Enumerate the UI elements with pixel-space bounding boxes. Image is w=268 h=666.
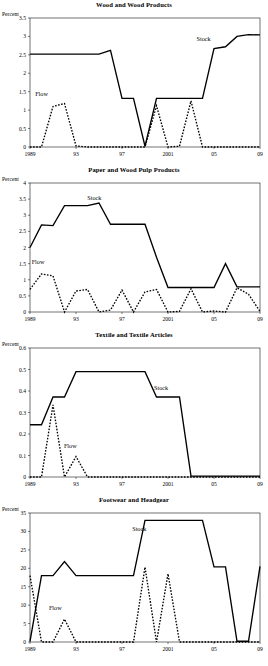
x-tick-label: 09 bbox=[257, 646, 263, 652]
y-tick-label: 3.5 bbox=[19, 196, 26, 202]
y-tick-label: 1 bbox=[23, 277, 26, 283]
x-tick-label: 1989 bbox=[24, 151, 35, 157]
chart-title: Textile and Textile Articles bbox=[0, 330, 268, 339]
y-tick-label: 1.5 bbox=[19, 261, 26, 267]
y-tick-label: 3 bbox=[23, 212, 26, 218]
chart-plot: Percent00.511.522.533.541989939720010509… bbox=[0, 174, 268, 330]
y-tick-label: 1.5 bbox=[19, 89, 26, 95]
stock-series-line bbox=[30, 372, 260, 476]
chart-canvas-2: Percent00.10.20.30.40.50.619899397200105… bbox=[0, 339, 268, 495]
y-axis-unit-label: Percent bbox=[2, 176, 19, 182]
y-axis-unit-label: Percent bbox=[2, 506, 19, 512]
figure-sheet: Wood and Wood Products Percent00.511.522… bbox=[0, 0, 268, 666]
y-tick-label: 0.6 bbox=[19, 345, 26, 351]
flow-series-line bbox=[30, 274, 260, 312]
y-tick-label: 2.5 bbox=[19, 52, 26, 58]
chart-plot: Percent00.511.522.533.51989939720010509S… bbox=[0, 9, 268, 165]
x-tick-label: 93 bbox=[73, 151, 79, 157]
stock-series-line bbox=[30, 520, 260, 641]
series-annotation-flow: Flow bbox=[64, 442, 77, 449]
x-tick-label: 05 bbox=[211, 646, 217, 652]
x-tick-label: 2001 bbox=[162, 151, 173, 157]
y-tick-label: 0.3 bbox=[19, 410, 26, 416]
y-tick-label: 10 bbox=[20, 602, 26, 608]
chart-canvas-3: Percent051015202530351989939720010509Sto… bbox=[0, 504, 268, 660]
x-tick-label: 09 bbox=[257, 316, 263, 322]
y-axis-unit-label: Percent bbox=[2, 341, 19, 347]
y-tick-label: 3 bbox=[23, 33, 26, 39]
x-tick-label: 2001 bbox=[162, 646, 173, 652]
chart-title: Paper and Wood Pulp Products bbox=[0, 165, 268, 174]
x-tick-label: 93 bbox=[73, 646, 79, 652]
x-tick-label: 97 bbox=[119, 151, 125, 157]
x-tick-label: 05 bbox=[211, 481, 217, 487]
y-tick-label: 0 bbox=[23, 639, 26, 645]
y-tick-label: 0 bbox=[23, 144, 26, 150]
x-tick-label: 1989 bbox=[24, 316, 35, 322]
y-tick-label: 25 bbox=[20, 547, 26, 553]
x-tick-label: 1989 bbox=[24, 481, 35, 487]
y-tick-label: 0.5 bbox=[19, 293, 26, 299]
y-tick-label: 0.5 bbox=[19, 126, 26, 132]
x-tick-label: 97 bbox=[119, 481, 125, 487]
x-tick-label: 93 bbox=[73, 316, 79, 322]
stock-series-line bbox=[30, 35, 260, 147]
series-annotation-flow: Flow bbox=[49, 604, 62, 611]
y-tick-label: 20 bbox=[20, 565, 26, 571]
chart-title: Wood and Wood Products bbox=[0, 0, 268, 9]
chart-panel-1: Paper and Wood Pulp Products Percent00.5… bbox=[0, 165, 268, 330]
y-tick-label: 5 bbox=[23, 621, 26, 627]
x-tick-label: 09 bbox=[257, 151, 263, 157]
y-tick-label: 35 bbox=[20, 510, 26, 516]
series-annotation-flow: Flow bbox=[35, 90, 48, 97]
chart-canvas-1: Percent00.511.522.533.541989939720010509… bbox=[0, 174, 268, 330]
x-tick-label: 1989 bbox=[24, 646, 35, 652]
y-tick-label: 3.5 bbox=[19, 15, 26, 21]
y-tick-label: 0.2 bbox=[19, 431, 26, 437]
y-tick-label: 0.5 bbox=[19, 367, 26, 373]
flow-series-line bbox=[30, 567, 260, 642]
series-annotation-flow: Flow bbox=[32, 258, 45, 265]
series-annotation-stock: Stock bbox=[132, 525, 147, 532]
y-axis-unit-label: Percent bbox=[2, 11, 19, 17]
y-tick-label: 0.1 bbox=[19, 453, 26, 459]
series-annotation-stock: Stock bbox=[197, 35, 212, 42]
chart-panel-3: Footwear and Headgear Percent05101520253… bbox=[0, 495, 268, 660]
x-tick-label: 97 bbox=[119, 316, 125, 322]
y-tick-label: 2.5 bbox=[19, 228, 26, 234]
chart-canvas-0: Percent00.511.522.533.51989939720010509S… bbox=[0, 9, 268, 165]
x-tick-label: 05 bbox=[211, 316, 217, 322]
y-tick-label: 0 bbox=[23, 474, 26, 480]
chart-panel-2: Textile and Textile Articles Percent00.1… bbox=[0, 330, 268, 495]
y-tick-label: 2 bbox=[23, 245, 26, 251]
series-annotation-stock: Stock bbox=[154, 384, 169, 391]
flow-series-line bbox=[30, 101, 260, 147]
plot-frame bbox=[30, 18, 260, 147]
chart-plot: Percent051015202530351989939720010509Sto… bbox=[0, 504, 268, 660]
y-tick-label: 0.4 bbox=[19, 388, 26, 394]
plot-frame bbox=[30, 348, 260, 477]
y-tick-label: 4 bbox=[23, 180, 26, 186]
x-tick-label: 05 bbox=[211, 151, 217, 157]
x-tick-label: 2001 bbox=[162, 316, 173, 322]
chart-title: Footwear and Headgear bbox=[0, 495, 268, 504]
x-tick-label: 2001 bbox=[162, 481, 173, 487]
x-tick-label: 97 bbox=[119, 646, 125, 652]
series-annotation-stock: Stock bbox=[87, 194, 102, 201]
chart-panel-0: Wood and Wood Products Percent00.511.522… bbox=[0, 0, 268, 165]
y-tick-label: 15 bbox=[20, 584, 26, 590]
stock-series-line bbox=[30, 203, 260, 287]
y-tick-label: 2 bbox=[23, 70, 26, 76]
chart-plot: Percent00.10.20.30.40.50.619899397200105… bbox=[0, 339, 268, 495]
y-tick-label: 1 bbox=[23, 107, 26, 113]
y-tick-label: 30 bbox=[20, 528, 26, 534]
y-tick-label: 0 bbox=[23, 309, 26, 315]
x-tick-label: 09 bbox=[257, 481, 263, 487]
x-tick-label: 93 bbox=[73, 481, 79, 487]
